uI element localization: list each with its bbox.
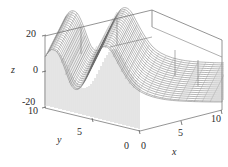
y-tick-5: 5 [77,127,82,137]
plot-canvas [0,0,228,167]
x-axis-label: x [172,147,176,157]
y-tick-0: 0 [124,141,129,151]
surface-mesh [45,8,228,129]
z-axis-label: z [11,65,15,75]
x-tick-0: 0 [141,141,146,151]
x-tick-10: 10 [211,114,221,124]
x-tick-5: 5 [178,128,183,138]
axes-box-frame [45,10,222,131]
z-tick-20: 20 [26,29,36,39]
y-tick-10: 10 [28,106,38,116]
y-axis-label: y [57,135,61,145]
surface-plot-figure: 20 0 -20 z 10 5 0 y 0 5 10 x [0,0,228,167]
z-tick-0: 0 [33,65,38,75]
